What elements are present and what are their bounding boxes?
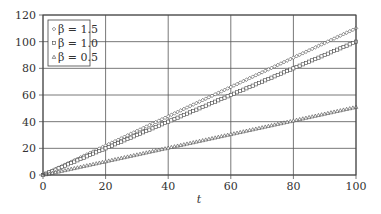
x-tick-label: 20 — [99, 180, 113, 193]
legend-label: β = 0.5 — [58, 51, 98, 64]
y-tick-label: 60 — [22, 89, 36, 102]
x-tick-label: 60 — [224, 180, 238, 193]
y-tick-label: 20 — [22, 142, 36, 155]
legend-item: β = 1.5 — [52, 23, 98, 36]
y-tick-label: 80 — [22, 62, 36, 75]
y-tick-label: 0 — [29, 169, 36, 182]
legend-label: β = 1.5 — [58, 23, 98, 36]
x-tick-label: 100 — [346, 180, 367, 193]
legend-item: β = 0.5 — [52, 51, 98, 64]
legend-item: β = 1.0 — [52, 37, 98, 50]
x-tick-label: 40 — [161, 180, 175, 193]
line-chart: 020406080100020406080100120 t β = 1.5β =… — [0, 0, 381, 214]
legend-label: β = 1.0 — [58, 37, 98, 50]
x-tick-label: 0 — [40, 180, 47, 193]
y-tick-label: 100 — [15, 36, 36, 49]
y-tick-label: 40 — [22, 116, 36, 129]
y-tick-label: 120 — [15, 9, 36, 22]
x-axis-label: t — [197, 193, 202, 206]
legend: β = 1.5β = 1.0β = 0.5 — [48, 20, 98, 66]
series-triangle — [41, 105, 358, 176]
x-tick-label: 80 — [286, 180, 300, 193]
